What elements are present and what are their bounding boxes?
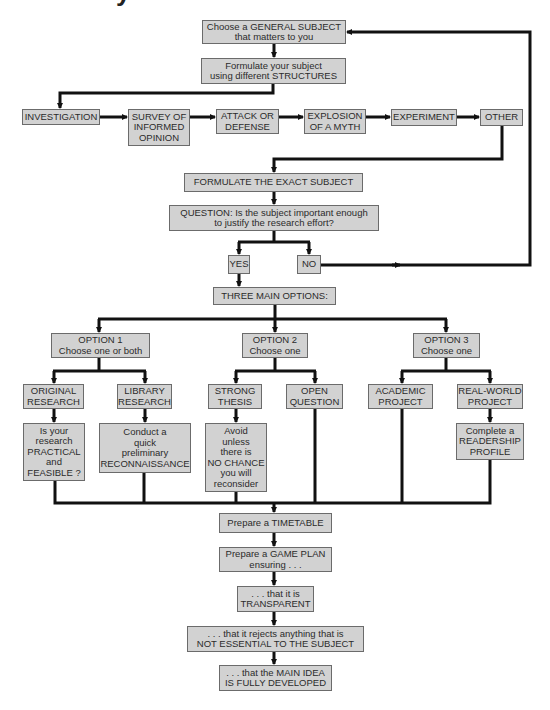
node-exact-subject: FORMULATE THE EXACT SUBJECT (184, 173, 363, 192)
node-library-research: LIBRARY RESEARCH (117, 384, 172, 409)
node-survey: SURVEY OF INFORMED OPINION (128, 109, 190, 146)
node-structures: Formulate your subject using different S… (201, 58, 346, 84)
line-three-branch (98, 305, 447, 319)
node-attack: ATTACK OR DEFENSE (216, 109, 279, 134)
node-yes: YES (228, 255, 250, 274)
line-question-branch (238, 231, 310, 242)
node-transparent: . . . that it is TRANSPARENT (237, 586, 314, 612)
node-three-options: THREE MAIN OPTIONS: (213, 287, 336, 305)
node-real-world-project: REAL-WORLD PROJECT (457, 384, 523, 409)
flowchart-canvas: y (0, 0, 550, 710)
node-other: OTHER (480, 109, 523, 126)
arrow-structures-to-investigation (60, 84, 273, 108)
node-no: NO (297, 255, 321, 274)
node-option-1: OPTION 1 Choose one or both (51, 333, 150, 358)
node-main-idea: . . . that the MAIN IDEA IS FULLY DEVELO… (219, 665, 332, 691)
node-academic-project: ACADEMIC PROJECT (368, 384, 433, 409)
node-explosion: EXPLOSION OF A MYTH (304, 109, 366, 134)
node-open-question: OPEN QUESTION (286, 384, 343, 409)
node-experiment: EXPERIMENT (391, 109, 457, 126)
node-investigation: INVESTIGATION (22, 109, 100, 125)
node-original-research: ORIGINAL RESEARCH (23, 384, 84, 409)
node-option-3: OPTION 3 Choose one (413, 333, 480, 358)
node-reconnaissance: Conduct a quick preliminary RECONNAISSAN… (99, 423, 191, 473)
node-strong-thesis: STRONG THESIS (208, 384, 262, 409)
node-question: QUESTION: Is the subject important enoug… (169, 205, 379, 231)
line-option-2-branch (235, 358, 316, 371)
line-option-3-branch (401, 358, 491, 371)
node-avoid: Avoid unless there is NO CHANCE you will… (205, 423, 267, 492)
node-timetable: Prepare a TIMETABLE (219, 513, 332, 533)
node-general-subject: Choose a GENERAL SUBJECT that matters to… (202, 20, 346, 44)
node-readership: Complete a READERSHIP PROFILE (456, 423, 524, 460)
line-option-1-branch (53, 358, 146, 371)
node-not-essential: . . . that it rejects anything that is N… (187, 626, 364, 652)
node-game-plan: Prepare a GAME PLAN ensuring . . . (219, 547, 332, 572)
node-practical: Is your research PRACTICAL and FEASIBLE … (23, 423, 85, 481)
node-option-2: OPTION 2 Choose one (242, 333, 308, 358)
